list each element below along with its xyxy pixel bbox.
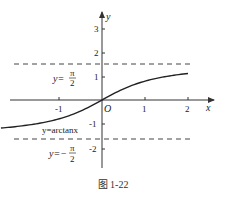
figure-caption: 图 1-22	[0, 176, 226, 191]
asymptote-top-label: y= π 2	[52, 68, 76, 88]
y-tick-label: -1	[89, 119, 97, 129]
y-tick-label: -2	[89, 144, 97, 154]
y-tick-label: 3	[94, 24, 99, 34]
origin-label: O	[104, 103, 111, 114]
y-axis-label: y	[105, 11, 111, 22]
x-axis-label: x	[205, 102, 211, 113]
svg-text:π: π	[70, 143, 75, 153]
svg-text:2: 2	[70, 154, 75, 164]
svg-text:2: 2	[70, 78, 75, 88]
y-tick-label: 2	[94, 48, 99, 58]
curve-label: y=arctanx	[42, 125, 79, 135]
svg-text:y=−: y=−	[48, 148, 67, 159]
x-tick-label: 1	[142, 104, 147, 114]
arctan-graph: x y O -1 1 2 3 2 1 -1 -2 y= π 2 y=− π 2 …	[0, 0, 226, 197]
x-tick-label: -1	[55, 104, 63, 114]
svg-text:π: π	[70, 68, 75, 78]
asymptote-bottom-label: y=− π 2	[48, 143, 76, 164]
svg-text:y=: y=	[52, 73, 64, 84]
y-tick-label: 1	[94, 72, 99, 82]
x-tick-label: 2	[185, 104, 190, 114]
